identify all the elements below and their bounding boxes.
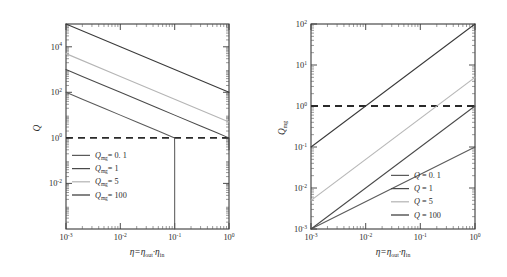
x-tick-label: 10-2 — [114, 232, 127, 243]
left-y-minor-ticks — [66, 25, 229, 222]
legend-label: Qmg= 5 — [95, 177, 119, 187]
legend-label: Qmg= 0. 1 — [95, 151, 127, 161]
y-tick-label: 102 — [296, 19, 307, 30]
x-tick-label: 100 — [223, 232, 234, 243]
left-legend: Qmg= 0. 1Qmg= 1Qmg= 5Qmg= 100 — [72, 151, 127, 201]
series-line — [311, 77, 475, 200]
series-line — [66, 24, 229, 92]
legend-label: Qmg= 1 — [95, 164, 119, 174]
y-tick-label: 104 — [51, 41, 62, 52]
y-tick-label: 102 — [51, 87, 62, 98]
x-tick-label: 10-2 — [359, 232, 372, 243]
chart-panel-right: Qmg 10-3 10-2 10-1 100 10-3 — [253, 0, 506, 277]
y-tick-label: 10-2 — [294, 183, 307, 194]
x-tick-label: 10-1 — [168, 232, 181, 243]
y-tick-label: 100 — [296, 101, 307, 112]
left-y-tick-labels: 10-2 100 102 104 — [49, 41, 62, 188]
right-x-tick-labels: 10-3 10-2 10-1 100 — [304, 232, 480, 243]
legend-label: Q = 1 — [414, 184, 433, 193]
left-x-tick-labels: 10-3 10-2 10-1 100 — [59, 232, 234, 243]
x-tick-label: 100 — [469, 232, 480, 243]
right-y-major-ticks — [311, 24, 475, 229]
legend-label: Qmg= 100 — [95, 191, 127, 201]
y-tick-label: 100 — [51, 132, 62, 143]
right-x-major-ticks — [311, 24, 475, 229]
right-x-axis-label: η=ηout·ηin — [376, 247, 411, 258]
left-x-axis-label: η=ηout·ηin — [130, 247, 165, 258]
right-axes-frame — [311, 24, 475, 229]
legend-label: Q = 5 — [414, 197, 433, 206]
legend-label: Q = 0. 1 — [414, 171, 441, 180]
right-y-tick-labels: 10-3 10-2 10-1 100 101 102 — [294, 19, 307, 235]
right-x-minor-ticks — [327, 24, 472, 229]
right-legend: Q = 0. 1Q = 1Q = 5Q = 100 — [391, 171, 441, 220]
left-y-major-ticks — [66, 47, 229, 184]
left-y-axis-label: Q — [32, 124, 42, 131]
left-plot-svg: Q 10-3 10-2 10-1 100 10-2 — [0, 0, 253, 277]
legend-label: Q = 100 — [414, 211, 441, 220]
y-tick-label: 10-1 — [294, 142, 307, 153]
right-plot-svg: Qmg 10-3 10-2 10-1 100 10-3 — [253, 0, 506, 277]
x-tick-label: 10-1 — [414, 232, 427, 243]
series-line — [66, 92, 175, 229]
chart-panel-left: Q 10-3 10-2 10-1 100 10-2 — [0, 0, 253, 277]
series-line — [311, 106, 475, 229]
figure-container: Q 10-3 10-2 10-1 100 10-2 — [0, 0, 507, 277]
y-tick-label: 10-2 — [49, 178, 62, 189]
right-data-curves — [311, 24, 475, 229]
series-line — [66, 54, 229, 122]
y-tick-label: 101 — [296, 60, 307, 71]
series-line — [311, 24, 475, 147]
x-tick-label: 10-3 — [59, 232, 72, 243]
right-y-axis-label: Qmg — [277, 121, 288, 135]
x-tick-label: 10-3 — [304, 232, 317, 243]
left-data-curves — [66, 24, 229, 229]
